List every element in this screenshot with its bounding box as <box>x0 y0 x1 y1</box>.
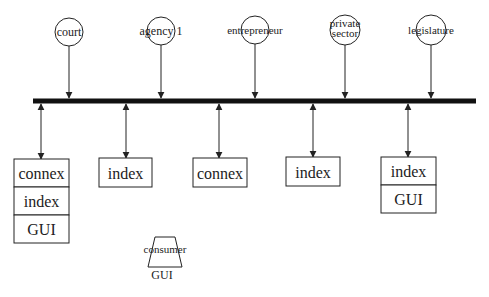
producer-label: sector <box>332 27 359 39</box>
producer-label: agency 1 <box>140 24 183 38</box>
node-stack: indexGUI <box>381 104 436 213</box>
producer-node: court <box>55 18 83 98</box>
component-label: GUI <box>394 191 422 208</box>
consumer-node: consumerGUI <box>144 237 187 282</box>
component-label: index <box>108 165 144 182</box>
consumer-sublabel: GUI <box>151 268 172 282</box>
architecture-diagram: courtagency 1entrepreneurprivatesectorle… <box>0 0 489 297</box>
component-label: index <box>24 193 60 210</box>
component-label: connex <box>18 165 64 182</box>
producer-node: legislature <box>408 15 454 98</box>
component-label: index <box>391 163 427 180</box>
node-stack: index <box>99 104 152 187</box>
producer-node: entrepreneur <box>227 16 283 98</box>
producer-node: agency 1 <box>140 17 183 98</box>
node-stack: connexindexGUI <box>14 104 69 243</box>
component-label: index <box>295 164 331 181</box>
consumer-label: consumer <box>144 243 187 255</box>
producer-label: court <box>57 25 82 39</box>
component-label: GUI <box>27 221 55 238</box>
producer-label: entrepreneur <box>227 24 283 36</box>
producer-node: privatesector <box>330 15 361 98</box>
producer-label: legislature <box>408 24 454 36</box>
component-label: connex <box>197 165 243 182</box>
node-stack: connex <box>193 104 247 187</box>
node-stack: index <box>286 104 340 186</box>
